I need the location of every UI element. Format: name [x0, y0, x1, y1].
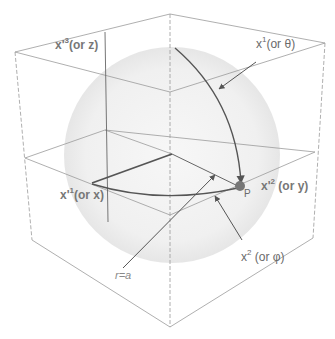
z-axis-label: x'3(or z): [55, 39, 98, 51]
theta-label: x1(or θ): [256, 38, 295, 50]
phi-label: x2 (or φ): [241, 251, 285, 263]
x-axis-label: x'1(or x): [60, 189, 104, 201]
y-axis-label: x'2 (or y): [261, 180, 308, 192]
radius-label: r=a: [115, 270, 131, 281]
point-p-label: P: [244, 189, 251, 199]
sphere: [64, 47, 280, 263]
